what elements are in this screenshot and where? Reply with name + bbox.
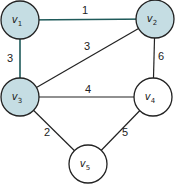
node-v5: v5 bbox=[69, 145, 107, 183]
edge-weight-label: 4 bbox=[85, 83, 91, 95]
edge-weight-label: 3 bbox=[7, 52, 13, 64]
node-v2: v2 bbox=[136, 0, 174, 38]
node-v3: v3 bbox=[1, 78, 39, 116]
edge-v1-v2 bbox=[20, 19, 155, 20]
node-v1: v1 bbox=[1, 1, 39, 39]
edge-weight-label: 1 bbox=[82, 4, 88, 16]
edge-weight-label: 3 bbox=[84, 40, 90, 52]
weighted-graph-diagram: 1336425 v1v2v3v4v5 bbox=[0, 0, 176, 188]
edge-weight-label: 5 bbox=[122, 126, 128, 138]
node-v4: v4 bbox=[134, 78, 172, 116]
edge-weight-label: 6 bbox=[158, 50, 164, 62]
edge-weight-label: 2 bbox=[44, 126, 50, 138]
